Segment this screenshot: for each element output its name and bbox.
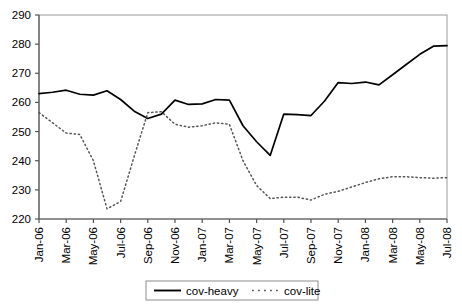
x-axis-tick-label: May-08 xyxy=(414,227,426,265)
x-axis-tick-label: May-06 xyxy=(87,227,99,265)
legend-label-cov-heavy: cov-heavy xyxy=(186,285,239,297)
y-axis-tick-label: 260 xyxy=(12,96,31,108)
y-axis-tick-label: 240 xyxy=(12,155,31,167)
x-axis-tick-label: Jul-07 xyxy=(278,227,290,258)
y-axis-tick-label: 290 xyxy=(12,9,31,21)
y-axis-tick-label: 270 xyxy=(12,67,31,79)
x-axis-tick-label: Sep-06 xyxy=(142,227,154,264)
y-axis-tick-label: 250 xyxy=(12,126,31,138)
plot-frame xyxy=(39,15,447,219)
x-axis-tick-label: Sep-07 xyxy=(305,227,317,264)
x-axis: Jan-06Mar-06May-06Jul-06Sep-06Nov-06Jan-… xyxy=(33,219,453,265)
y-axis-tick-label: 230 xyxy=(12,184,31,196)
x-axis-tick-label: Nov-07 xyxy=(332,227,344,264)
x-axis-tick-label: Jul-08 xyxy=(441,227,453,258)
x-axis-tick-label: Mar-06 xyxy=(60,227,72,263)
x-axis-tick-label: Jul-06 xyxy=(115,227,127,258)
plot-area-background xyxy=(39,15,447,219)
x-axis-tick-label: Nov-06 xyxy=(169,227,181,264)
chart-legend: cov-heavycov-lite xyxy=(146,281,320,300)
y-axis-tick-label: 280 xyxy=(12,38,31,50)
y-axis: 220230240250260270280290 xyxy=(12,9,39,225)
x-axis-tick-label: Mar-08 xyxy=(387,227,399,263)
chart-container: 220230240250260270280290 Jan-06Mar-06May… xyxy=(0,0,462,305)
x-axis-tick-label: Mar-07 xyxy=(223,227,235,263)
x-axis-tick-label: Jan-07 xyxy=(196,227,208,262)
x-axis-tick-label: Jan-06 xyxy=(33,227,45,262)
y-axis-tick-label: 220 xyxy=(12,213,31,225)
legend-label-cov-lite: cov-lite xyxy=(284,285,320,297)
x-axis-tick-label: Jan-08 xyxy=(359,227,371,262)
x-axis-tick-label: May-07 xyxy=(251,227,263,265)
line-chart: 220230240250260270280290 Jan-06Mar-06May… xyxy=(0,0,462,305)
